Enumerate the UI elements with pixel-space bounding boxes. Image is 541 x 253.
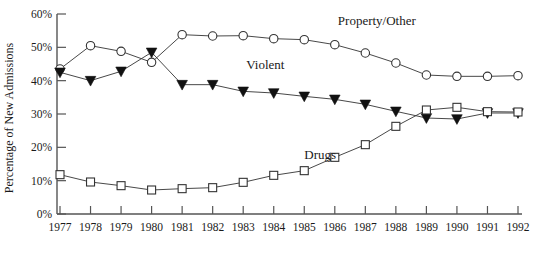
y-tick-label: 60% [31, 8, 53, 20]
y-tick-label: 30% [31, 108, 53, 120]
data-point-marker [514, 108, 522, 116]
data-point-marker [116, 67, 127, 77]
x-tick-label: 1991 [476, 221, 499, 233]
y-axis-title: Percentage of New Admissions [2, 43, 16, 194]
data-point-marker [239, 178, 247, 186]
data-point-marker [300, 167, 308, 175]
data-point-marker [514, 71, 522, 79]
data-point-marker [392, 59, 400, 67]
data-point-marker [208, 32, 216, 40]
y-tick-label: 0% [37, 208, 53, 220]
data-point-marker [483, 72, 491, 80]
chart-container: Percentage of New Admissions 0%10%20%30%… [0, 0, 541, 253]
data-point-marker [117, 47, 125, 55]
data-point-marker [422, 71, 430, 79]
data-point-marker [178, 185, 186, 193]
line-chart: Percentage of New Admissions 0%10%20%30%… [0, 0, 541, 253]
series-path [60, 107, 518, 190]
data-point-marker [483, 108, 491, 116]
series-label-violent: Violent [246, 57, 285, 72]
series-property-other [56, 30, 522, 80]
x-tick-label: 1983 [232, 221, 255, 233]
data-point-marker [270, 171, 278, 179]
x-tick-label: 1985 [293, 221, 316, 233]
data-point-marker [209, 184, 217, 192]
data-point-marker [86, 41, 94, 49]
y-tick-label: 10% [31, 175, 53, 187]
y-tick-label: 40% [31, 75, 53, 87]
x-tick-label: 1989 [415, 221, 438, 233]
x-tick-label: 1987 [354, 221, 377, 233]
data-point-marker [361, 141, 369, 149]
data-point-marker [147, 58, 155, 66]
x-tick-label: 1978 [79, 221, 102, 233]
x-tick-label: 1990 [445, 221, 468, 233]
x-tick-label: 1981 [171, 221, 194, 233]
data-point-marker [452, 115, 463, 125]
data-point-marker [117, 182, 125, 190]
data-point-marker [300, 35, 308, 43]
data-point-marker [331, 40, 339, 48]
data-point-marker [422, 106, 430, 114]
x-axis-ticks: 1977197819791980198119821983198419851986… [49, 206, 530, 233]
data-point-marker [453, 103, 461, 111]
data-point-marker [177, 80, 188, 90]
series-layer [55, 30, 524, 194]
data-point-marker [453, 72, 461, 80]
data-point-marker [392, 122, 400, 130]
series-drugs [56, 103, 522, 194]
data-point-marker [148, 186, 156, 194]
x-tick-label: 1984 [262, 221, 285, 233]
x-tick-label: 1988 [384, 221, 407, 233]
x-tick-label: 1982 [201, 221, 224, 233]
data-point-marker [270, 34, 278, 42]
data-point-marker [87, 178, 95, 186]
data-point-marker [361, 49, 369, 57]
data-point-marker [85, 76, 96, 86]
series-violent [55, 48, 524, 124]
series-path [60, 52, 518, 119]
series-label-drugs: Drugs [304, 147, 336, 162]
y-tick-label: 20% [31, 141, 53, 153]
series-path [60, 35, 518, 77]
y-axis-ticks: 0%10%20%30%40%50%60% [31, 8, 66, 220]
data-point-marker [178, 30, 186, 38]
x-tick-label: 1980 [140, 221, 163, 233]
y-tick-label: 50% [31, 41, 53, 53]
series-label-property-other: Property/Other [338, 13, 417, 28]
x-tick-label: 1992 [507, 221, 530, 233]
x-tick-label: 1979 [110, 221, 133, 233]
x-tick-label: 1977 [49, 221, 72, 233]
x-tick-label: 1986 [323, 221, 346, 233]
data-point-marker [239, 31, 247, 39]
data-point-marker [56, 171, 64, 179]
